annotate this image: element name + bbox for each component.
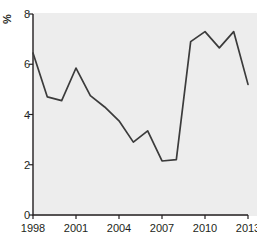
plot-area xyxy=(0,0,257,247)
line-chart: % 02468 199820012004200720102013 xyxy=(0,0,257,247)
